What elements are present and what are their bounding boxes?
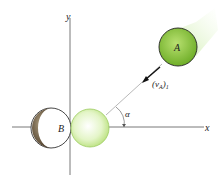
ball-a-label: A bbox=[173, 42, 181, 53]
angle-arrowhead-icon bbox=[122, 124, 126, 127]
angle-label: α bbox=[125, 109, 130, 119]
velocity-label: (vA)1 bbox=[152, 79, 169, 90]
x-axis-label: x bbox=[204, 122, 210, 133]
ball-b-label: B bbox=[58, 123, 64, 134]
ball-a-impact-position bbox=[71, 109, 109, 147]
y-axis-label: y bbox=[65, 11, 71, 22]
collision-diagram: y x (vA)1 α B A bbox=[0, 0, 222, 180]
